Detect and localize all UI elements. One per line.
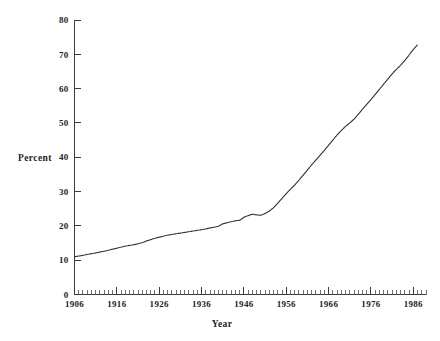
x-axis-minor-ticks (79, 290, 426, 295)
chart-figure: 01020304050607080 1906191619261936194619… (0, 0, 440, 341)
y-tick-label: 80 (59, 15, 69, 25)
x-tick-label: 1926 (150, 299, 169, 309)
x-tick-label: 1906 (65, 299, 84, 309)
series-line-percent (75, 45, 418, 257)
x-tick-label: 1956 (277, 299, 296, 309)
y-tick-label: 20 (59, 221, 69, 231)
x-axis-ticks: 190619161926193619461956196619761986 (65, 287, 423, 309)
x-tick-label: 1946 (234, 299, 253, 309)
y-tick-label: 60 (59, 84, 69, 94)
x-tick-label: 1976 (361, 299, 380, 309)
x-tick-label: 1986 (404, 299, 423, 309)
y-tick-label: 40 (59, 152, 69, 162)
line-chart: 01020304050607080 1906191619261936194619… (0, 0, 440, 341)
y-tick-label: 30 (59, 187, 69, 197)
x-tick-label: 1916 (107, 299, 126, 309)
y-axis-ticks: 01020304050607080 (59, 15, 81, 300)
x-tick-label: 1936 (192, 299, 211, 309)
x-axis-title: Year (212, 319, 233, 329)
y-axis-title: Percent (18, 153, 52, 163)
y-tick-label: 10 (59, 255, 69, 265)
y-tick-label: 70 (59, 50, 69, 60)
x-tick-label: 1966 (319, 299, 338, 309)
y-tick-label: 50 (59, 118, 69, 128)
